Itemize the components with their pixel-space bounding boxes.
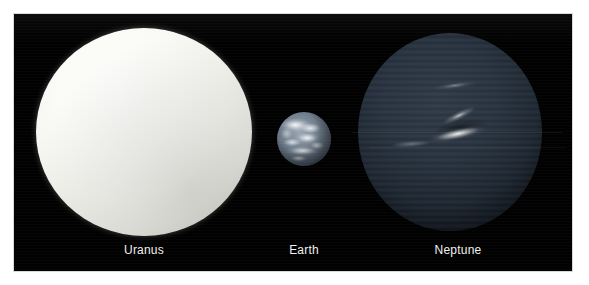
neptune-limb-darkening (358, 33, 542, 231)
planet-size-comparison-figure: Uranus Earth Neptune (0, 0, 589, 285)
space-background-panel: Uranus Earth Neptune (14, 14, 572, 271)
label-earth: Earth (289, 243, 319, 257)
planet-uranus (36, 28, 252, 236)
label-neptune: Neptune (435, 243, 482, 257)
planet-earth (277, 112, 331, 166)
planet-neptune (358, 33, 542, 231)
earth-terminator-shadow (277, 112, 331, 166)
uranus-limb-darkening (36, 28, 252, 236)
label-uranus: Uranus (124, 243, 164, 257)
